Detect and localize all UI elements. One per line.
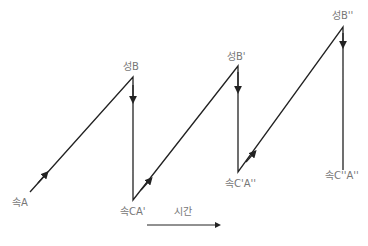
label-b2: 성B'' (332, 11, 353, 21)
arrow-up-1-icon (38, 174, 46, 183)
label-b1: 성B' (227, 52, 246, 62)
arrow-up-2-icon (141, 180, 150, 190)
label-b: 성B (123, 62, 139, 72)
label-ca1: 속CA' (120, 207, 146, 217)
sawtooth-path (30, 27, 343, 200)
label-c1a2: 속C'A'' (225, 179, 256, 189)
label-a: 속A (12, 198, 28, 208)
label-time: 시간 (174, 207, 192, 217)
label-c2a2: 속C''A'' (325, 171, 359, 181)
